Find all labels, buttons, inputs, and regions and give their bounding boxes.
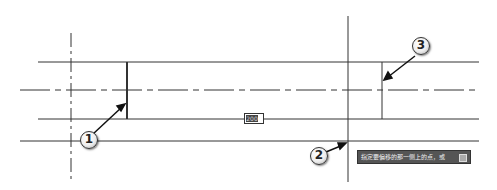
tooltip-text: 指定要偏移的那一侧上的点，或 (361, 153, 445, 160)
dynamic-input-value[interactable]: 200 (246, 115, 258, 122)
arrow-1 (93, 107, 122, 134)
callout-2: 2 (310, 147, 328, 165)
arrow-2-head (338, 143, 346, 149)
arrow-3-head (384, 72, 392, 80)
callout-3: 3 (412, 37, 430, 55)
dynamic-input-box[interactable]: 200 (244, 113, 264, 124)
command-prompt-tooltip: 指定要偏移的那一侧上的点，或 (357, 150, 471, 164)
callout-1: 1 (80, 131, 98, 149)
dropdown-icon[interactable] (459, 154, 467, 162)
arrow-3 (388, 56, 415, 77)
